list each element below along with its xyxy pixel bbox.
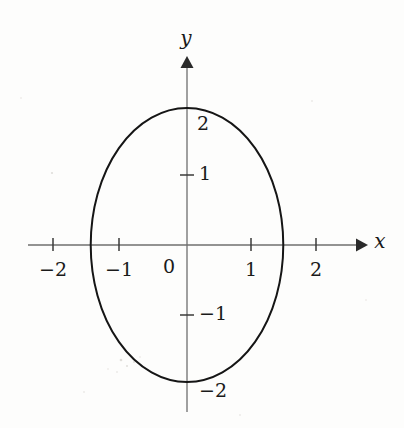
y-tick-label-neg2: −2 — [199, 379, 227, 401]
x-axis — [28, 239, 368, 252]
y-tick-label-pos1: 1 — [199, 162, 211, 184]
y-axis-arrowhead — [181, 56, 194, 68]
graph-figure: −2 −1 1 2 2 1 −1 −2 0 x y — [0, 0, 404, 428]
x-axis-arrowhead — [356, 239, 368, 252]
coordinate-plot-svg: −2 −1 1 2 2 1 −1 −2 0 x y — [0, 0, 404, 428]
y-axis — [181, 56, 194, 412]
x-tick-label-neg1: −1 — [105, 258, 133, 280]
origin-label: 0 — [163, 255, 175, 277]
y-tick-label-neg1: −1 — [199, 302, 227, 324]
scan-speckles — [20, 97, 366, 416]
y-axis-label: y — [179, 26, 192, 50]
x-axis-label: x — [374, 229, 385, 253]
x-tick-label-pos1: 1 — [245, 258, 257, 280]
x-tick-label-pos2: 2 — [310, 258, 322, 280]
y-tick-label-pos2: 2 — [197, 112, 209, 134]
x-tick-label-neg2: −2 — [39, 258, 67, 280]
